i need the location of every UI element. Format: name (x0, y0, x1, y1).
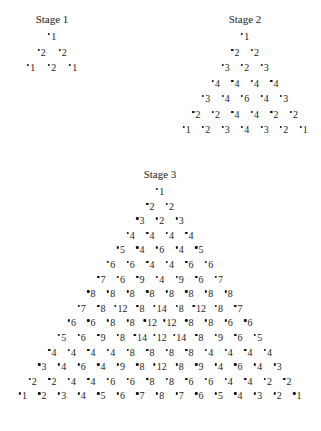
node-value: 4 (51, 347, 56, 358)
node-value: 9 (140, 274, 145, 285)
node: 2 (156, 215, 164, 227)
node-value: 14 (157, 303, 167, 314)
node: 4 (175, 244, 183, 256)
node: 4 (185, 230, 193, 242)
node: 8 (185, 347, 193, 359)
node-value: 4 (159, 274, 164, 285)
node: 8 (117, 332, 125, 344)
triangle-row: 1234321 (0, 124, 321, 136)
node-value: 4 (228, 347, 233, 358)
node-value: 4 (247, 347, 252, 358)
node: 4 (87, 347, 95, 359)
node: 6 (234, 361, 242, 373)
node-value: 2 (195, 109, 200, 120)
node: 6 (234, 332, 242, 344)
node-value: 3 (61, 390, 66, 401)
triangle-row: 668812128866 (0, 317, 321, 329)
node-value: 8 (149, 288, 154, 299)
node: 8 (107, 317, 115, 329)
node: 8 (126, 347, 134, 359)
node: 4 (231, 109, 239, 121)
node-value: 8 (100, 303, 105, 314)
node-value: 3 (140, 215, 145, 226)
node-value: 8 (120, 332, 125, 343)
node: 6 (117, 274, 125, 286)
triangle-row: 22446688664422 (0, 376, 321, 388)
node-value: 4 (234, 78, 239, 89)
node-value: 8 (91, 288, 96, 299)
node: 5 (195, 244, 203, 256)
node-value: 4 (215, 78, 220, 89)
node: 3 (260, 124, 268, 136)
node-value: 6 (130, 259, 135, 270)
node-value: 2 (234, 47, 239, 58)
node-value: 3 (179, 215, 184, 226)
node-value: 4 (169, 259, 174, 270)
node: 4 (260, 93, 268, 105)
stage-title: Stage 2 (229, 13, 262, 25)
node-value: 1 (159, 186, 164, 197)
node-value: 4 (254, 78, 259, 89)
node: 6 (185, 376, 193, 388)
node-value: 1 (244, 31, 249, 42)
node: 8 (185, 288, 193, 300)
node: 4 (77, 390, 85, 402)
triangle-row: 22 (0, 47, 321, 59)
node: 3 (202, 93, 210, 105)
node-value: 6 (130, 376, 135, 387)
node-value: 6 (238, 361, 243, 372)
node: 4 (136, 244, 144, 256)
node-value: 4 (71, 347, 76, 358)
node: 6 (126, 259, 134, 271)
node: 7 (234, 303, 242, 315)
node-value: 12 (166, 317, 176, 328)
node: 3 (38, 361, 46, 373)
node-value: 4 (140, 244, 145, 255)
node: 14 (173, 332, 186, 344)
node-value: 1 (186, 124, 191, 135)
node-value: 6 (110, 259, 115, 270)
node-value: 4 (110, 347, 115, 358)
node: 6 (205, 259, 213, 271)
node-value: 8 (179, 361, 184, 372)
node-value: 7 (218, 274, 223, 285)
node-value: 4 (149, 230, 154, 241)
node-value: 6 (228, 317, 233, 328)
node: 8 (185, 317, 193, 329)
triangle-row: 88888888 (0, 288, 321, 300)
node: 9 (136, 274, 144, 286)
node-value: 8 (208, 288, 213, 299)
node-value: 8 (110, 317, 115, 328)
node: 12 (163, 317, 176, 329)
node-value: 4 (267, 347, 272, 358)
node: 8 (175, 361, 183, 373)
node: 6 (205, 376, 213, 388)
node-value: 3 (277, 361, 282, 372)
node-value: 4 (179, 244, 184, 255)
node-value: 1 (303, 124, 308, 135)
node: 3 (273, 361, 281, 373)
node-value: 4 (91, 376, 96, 387)
node: 3 (221, 62, 229, 74)
node: 3 (136, 215, 144, 227)
node-value: 3 (205, 93, 210, 104)
node: 4 (68, 376, 76, 388)
triangle-row: 444488884444 (0, 347, 321, 359)
node: 2 (202, 124, 210, 136)
node-value: 8 (140, 361, 145, 372)
node-value: 4 (218, 361, 223, 372)
node-value: 8 (218, 303, 223, 314)
node-value: 8 (140, 303, 145, 314)
node-value: 9 (198, 361, 203, 372)
node-value: 6 (120, 274, 125, 285)
node: 2 (241, 62, 249, 74)
triangle-row: 664466 (0, 259, 321, 271)
node: 4 (166, 259, 174, 271)
node-value: 8 (189, 347, 194, 358)
node: 4 (68, 347, 76, 359)
node: 6 (87, 317, 95, 329)
node-value: 4 (71, 376, 76, 387)
node: 2 (251, 47, 259, 59)
node: 3 (254, 390, 262, 402)
node: 2 (273, 390, 281, 402)
